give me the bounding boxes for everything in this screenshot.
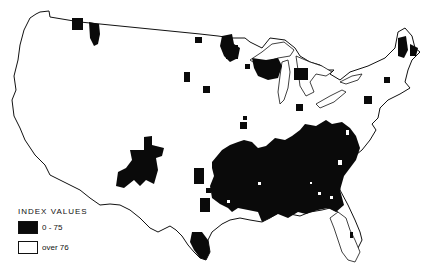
- legend-label-high: over 76: [42, 243, 69, 252]
- legend-title: INDEX VALUES: [18, 207, 118, 216]
- legend-item-low: 0 - 75: [18, 219, 118, 235]
- legend: INDEX VALUES 0 - 75 over 76: [18, 207, 118, 259]
- shaded-region-nw-1: [72, 18, 83, 30]
- legend-swatch-black: [18, 221, 38, 234]
- legend-swatch-white: [18, 241, 38, 254]
- legend-item-high: over 76: [18, 239, 118, 255]
- legend-label-low: 0 - 75: [42, 223, 62, 232]
